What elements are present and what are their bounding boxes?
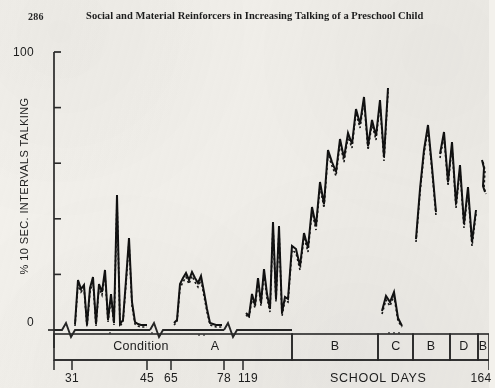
y-axis <box>48 52 61 348</box>
phase-label-a: A <box>185 339 245 353</box>
phase-label-condition: Condition <box>86 339 196 353</box>
page-number: 286 <box>28 11 44 22</box>
phase-label-b2: B <box>416 339 446 353</box>
x-axis-title: SCHOOL DAYS <box>330 371 427 385</box>
phase-label-d: D <box>451 339 477 353</box>
phase-label-b3: B <box>477 339 489 353</box>
x-tick-label-31: 31 <box>57 371 87 385</box>
x-tick-label-119: 119 <box>231 371 265 385</box>
x-axis <box>54 360 489 370</box>
x-tick-label-65: 65 <box>156 371 186 385</box>
figure-chart: % 10 SEC. INTERVALS TALKING 100 0 <box>0 30 489 388</box>
running-title: Social and Material Reinforcers in Incre… <box>86 10 486 21</box>
phase-label-c: C <box>381 339 411 353</box>
chart-canvas <box>0 30 489 388</box>
phase-label-b1: B <box>305 339 365 353</box>
x-tick-label-164: 164 <box>466 371 495 385</box>
page-header: 286 Social and Material Reinforcers in I… <box>0 9 489 29</box>
data-series-observer-1-solid <box>75 88 485 326</box>
zero-baseline <box>54 323 292 337</box>
